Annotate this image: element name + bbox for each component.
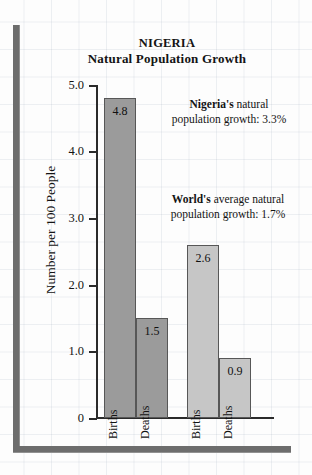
chart-title-country: NIGERIA xyxy=(36,36,298,51)
y-tick-mark-5 xyxy=(89,85,97,87)
bar-category-wrap-nigeria-deaths: Deaths xyxy=(137,361,167,413)
chart-title-subject: Natural Population Growth xyxy=(36,51,298,66)
y-axis-line xyxy=(96,85,98,419)
annotation-nigeria-growth: Nigeria's natural population growth: 3.3… xyxy=(156,97,302,127)
chart-page: NIGERIA Natural Population Growth Number… xyxy=(0,0,312,475)
y-tick-label-4: 4.0 xyxy=(68,144,84,159)
y-tick-label-5: 5.0 xyxy=(68,78,84,93)
bar-category-nigeria-deaths: Deaths xyxy=(138,387,152,439)
annotation-world-bold-lead: World's xyxy=(172,193,211,205)
bar-value-nigeria-births: 4.8 xyxy=(105,104,135,119)
bar-category-world-deaths: Deaths xyxy=(221,387,235,439)
bar-nigeria-deaths[interactable]: 1.5 Deaths xyxy=(136,318,168,418)
y-tick-mark-3 xyxy=(89,218,97,220)
bar-value-world-births: 2.6 xyxy=(188,251,218,266)
bar-world-births[interactable]: 2.6 Births xyxy=(187,245,219,418)
y-tick-label-1: 1.0 xyxy=(68,344,84,359)
y-tick-mark-2 xyxy=(89,285,97,287)
bar-category-nigeria-births: Births xyxy=(106,387,120,439)
y-tick-mark-0 xyxy=(89,418,97,420)
bar-nigeria-births[interactable]: 4.8 Births xyxy=(104,98,136,418)
y-axis-title: Number per 100 People xyxy=(43,130,59,330)
annotation-world-line2: population growth: 1.7% xyxy=(150,207,306,222)
annotation-nigeria-line2: population growth: 3.3% xyxy=(156,112,302,127)
bar-category-world-births: Births xyxy=(189,387,203,439)
bar-category-wrap-world-births: Births xyxy=(188,361,218,413)
page-frame-left-rule xyxy=(13,25,20,453)
annotation-nigeria-line1: Nigeria's natural xyxy=(156,97,302,112)
bar-value-nigeria-deaths: 1.5 xyxy=(137,324,167,339)
page-frame-bottom-rule xyxy=(13,446,291,453)
annotation-world-line1-rest: average natural xyxy=(211,193,284,205)
annotation-nigeria-line1-rest: natural xyxy=(234,98,269,110)
y-tick-label-0: 0 xyxy=(78,411,84,426)
y-tick-mark-1 xyxy=(89,351,97,353)
bar-category-wrap-nigeria-births: Births xyxy=(105,361,135,413)
annotation-world-growth: World's average natural population growt… xyxy=(150,192,306,222)
y-tick-label-2: 2.0 xyxy=(68,278,84,293)
bar-category-wrap-world-deaths: Deaths xyxy=(220,361,250,413)
chart-title-block: NIGERIA Natural Population Growth xyxy=(36,36,298,66)
bar-world-deaths[interactable]: 0.9 Deaths xyxy=(219,358,251,418)
annotation-world-line1: World's average natural xyxy=(150,192,306,207)
y-tick-mark-4 xyxy=(89,151,97,153)
y-tick-label-3: 3.0 xyxy=(68,211,84,226)
annotation-nigeria-bold-lead: Nigeria's xyxy=(190,98,234,110)
